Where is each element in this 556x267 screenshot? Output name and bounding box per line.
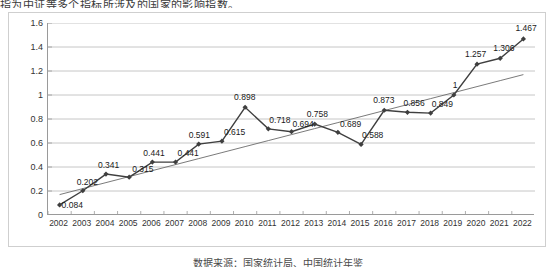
- y-axis-tick-label: 0: [13, 211, 43, 220]
- data-point-marker: [405, 110, 410, 115]
- data-point-label: 1.257: [465, 50, 486, 59]
- data-point-label: 0.898: [234, 93, 255, 102]
- data-line: [60, 39, 524, 205]
- data-point-label: 0.873: [373, 96, 394, 105]
- chart-frame: 00.20.40.60.811.21.41.6 0.0840.2020.3410…: [8, 12, 546, 247]
- data-point-label: 0.588: [362, 131, 383, 140]
- y-axis-tick-label: 0.8: [13, 115, 43, 124]
- y-axis-tick-label: 0.4: [13, 163, 43, 172]
- data-point-marker: [335, 130, 340, 135]
- data-point-label: 1: [453, 81, 458, 90]
- data-point-label: 0.591: [189, 131, 210, 140]
- y-axis-tick-label: 1.4: [13, 43, 43, 52]
- data-point-label: 1.306: [493, 44, 514, 53]
- data-point-marker: [289, 129, 294, 134]
- data-point-label: 0.315: [132, 165, 153, 174]
- x-axis: 2002200320042005200620072008200920102011…: [47, 218, 534, 234]
- y-axis-tick-label: 1.2: [13, 67, 43, 76]
- data-point-label: 0.694: [293, 120, 314, 129]
- x-axis-tick-label: 2022: [505, 218, 539, 228]
- data-point-label: 0.615: [224, 128, 245, 137]
- data-point-label: 0.758: [307, 110, 328, 119]
- bottom-caption-text: 数据来源：国家统计局、中国统计年鉴: [0, 255, 556, 267]
- data-point-label: 0.849: [432, 100, 453, 109]
- data-point-label: 0.202: [77, 178, 98, 187]
- top-caption-text: 指为中证等多个指标所涉及的国家的影响指数。: [0, 0, 556, 8]
- data-point-label: 1.467: [515, 24, 536, 33]
- gridlines: [48, 23, 535, 215]
- data-point-label: 0.441: [143, 149, 164, 158]
- data-point-label: 0.341: [98, 161, 119, 170]
- data-point-label: 0.084: [62, 201, 83, 210]
- series-line-group: [60, 39, 524, 205]
- chart-canvas: [48, 23, 535, 215]
- y-axis: 00.20.40.60.811.21.41.6: [9, 23, 43, 215]
- data-point-label: 0.718: [269, 116, 290, 125]
- y-axis-tick-label: 1: [13, 91, 43, 100]
- data-point-label: 0.689: [340, 120, 361, 129]
- data-point-label: 0.441: [178, 149, 199, 158]
- plot-area: 0.0840.2020.3410.3150.4410.4410.5910.615…: [47, 23, 534, 215]
- y-axis-tick-label: 0.2: [13, 187, 43, 196]
- y-axis-tick-label: 0.6: [13, 139, 43, 148]
- y-axis-tick-label: 1.6: [13, 19, 43, 28]
- data-point-label: 0.856: [403, 99, 424, 108]
- series-markers: [57, 36, 526, 207]
